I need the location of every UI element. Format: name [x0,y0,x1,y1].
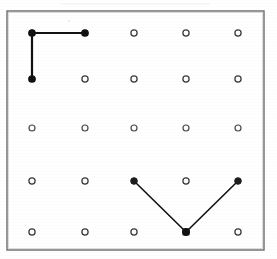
peg-r1-c1[interactable] [82,76,88,82]
peg-r2-c4[interactable] [235,125,241,131]
endpoint-l-start [82,30,88,36]
peg-r3-c1[interactable] [82,178,88,184]
peg-r1-c2[interactable] [131,76,137,82]
peg-r2-c3[interactable] [183,125,189,131]
peg-r3-c0[interactable] [29,178,35,184]
peg-r2-c1[interactable] [82,125,88,131]
endpoint-v-vertex [183,229,190,236]
endpoint-l-corner [29,30,35,36]
peg-r3-c3[interactable] [183,178,189,184]
endpoint-v-end [235,178,241,184]
peg-r0-c4[interactable] [235,30,241,36]
endpoint-v-start [131,178,137,184]
peg-r1-c4[interactable] [235,76,241,82]
peg-r4-c0[interactable] [29,229,35,235]
peg-r4-c4[interactable] [235,229,241,235]
peg-r2-c2[interactable] [131,125,137,131]
geoboard-canvas [0,0,277,259]
peg-r0-c2[interactable] [131,30,137,36]
peg-r4-c2[interactable] [131,229,137,235]
endpoint-l-end [29,76,35,82]
scan-speck [68,20,70,22]
peg-r1-c3[interactable] [183,76,189,82]
peg-r0-c3[interactable] [183,30,189,36]
peg-r2-c0[interactable] [29,125,35,131]
geoboard-figure: A square geoboard frame containing a 5 b… [0,0,277,259]
peg-r4-c1[interactable] [82,229,88,235]
